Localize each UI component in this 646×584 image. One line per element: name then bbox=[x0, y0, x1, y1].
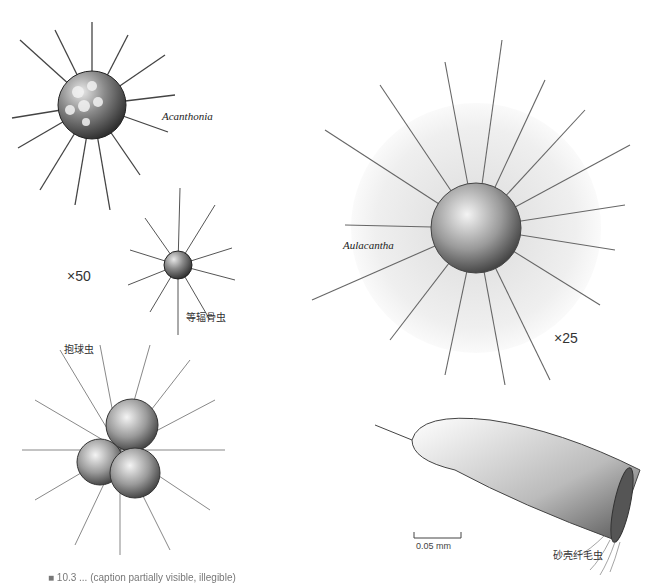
scale-bar bbox=[414, 532, 461, 538]
scale-bar-label: 0.05 mm bbox=[416, 541, 451, 551]
label-acanthonia: Acanthonia bbox=[162, 110, 213, 122]
magnification-x50: ×50 bbox=[67, 268, 91, 284]
magnification-x25: ×25 bbox=[554, 330, 578, 346]
label-aulacantha: Aulacantha bbox=[343, 239, 394, 251]
label-tintinnid: 砂壳纤毛虫 bbox=[553, 547, 603, 562]
label-isospora: 等辐骨虫 bbox=[186, 309, 226, 324]
label-orbulina: 抱球虫 bbox=[64, 341, 94, 356]
figure-caption: ■ 10.3 ... (caption partially visible, i… bbox=[48, 572, 608, 584]
